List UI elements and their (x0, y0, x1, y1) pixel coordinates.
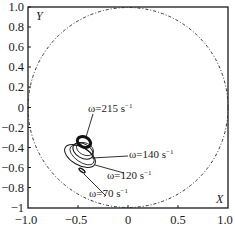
annotation-omega-140: ω=140 s−1 (129, 148, 174, 160)
y-tick-label: −0.4 (1, 141, 24, 155)
orbit-omega-70 (78, 167, 85, 173)
annotation-omega-215: ω=215 s−1 (88, 102, 133, 114)
y-tick-label: −0.8 (1, 181, 24, 195)
x-tick-label: 1.0 (217, 213, 233, 227)
x-tick-labels: −1.0 −0.5 0 0.5 1.0 (15, 213, 233, 227)
y-tick-label: 0.2 (8, 80, 24, 94)
x-tick-label: −1.0 (15, 213, 38, 227)
y-tick-label: 0.6 (8, 40, 24, 54)
x-tick-label: −0.5 (65, 213, 88, 227)
y-tick-label: 0.8 (8, 20, 24, 34)
y-tick-label: −0.6 (1, 161, 24, 175)
y-tick-label: −0.2 (1, 121, 24, 135)
orbit-plot: 1.0 0.8 0.6 0.4 0.2 0 −0.2 −0.4 −0.6 −0.… (0, 0, 235, 232)
annotation-omega-70: ω=70 s−1 (89, 187, 128, 199)
y-tick-labels: 1.0 0.8 0.6 0.4 0.2 0 −0.2 −0.4 −0.6 −0.… (1, 0, 24, 215)
y-tick-label: 0.4 (8, 60, 24, 74)
orbit-omega-215 (76, 135, 93, 150)
y-axis-label: Y (36, 9, 44, 23)
annotation-omega-120: ω=120 s−1 (107, 169, 152, 181)
x-tick-label: 0.5 (170, 213, 186, 227)
x-tick-label: 0 (125, 213, 131, 227)
y-tick-label: 1.0 (8, 0, 24, 14)
x-axis-label: X (215, 192, 224, 206)
y-tick-label: 0 (18, 101, 24, 115)
